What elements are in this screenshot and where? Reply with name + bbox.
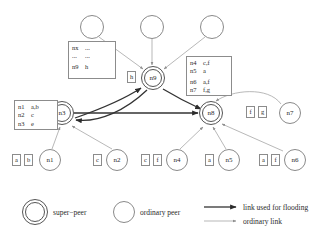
legend-arrows-layer bbox=[0, 0, 322, 236]
legend-ordinary-link-label: ordinary link bbox=[243, 217, 282, 226]
legend-flood-link-label: link used for flooding bbox=[243, 203, 308, 212]
figure-canvas: n9 n3 n8 n7 n1 n2 n4 n5 n6 h e f g a b c… bbox=[0, 0, 322, 236]
